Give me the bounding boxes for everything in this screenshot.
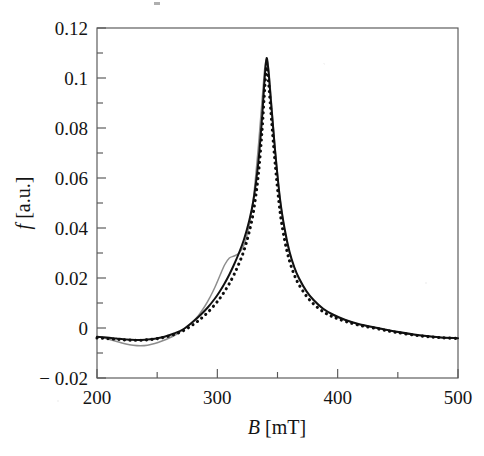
x-tick-label: 200: [83, 387, 112, 408]
y-axis-title: f [a.u.]: [12, 177, 35, 230]
x-tick-label: 400: [323, 387, 352, 408]
y-tick-label: 0.02: [55, 268, 88, 289]
y-tick-label: 0.06: [55, 168, 88, 189]
y-tick-label: 0.04: [55, 218, 89, 239]
x-tick-label: 300: [203, 387, 232, 408]
y-tick-label: 0.08: [55, 118, 88, 139]
x-axis-title: B [mT]: [248, 416, 306, 438]
scan-artifact-speck: [154, 2, 160, 5]
y-tick-label: 0.12: [55, 18, 88, 39]
resonance-line-chart: − 0.0200.020.040.060.080.10.12 200300400…: [0, 0, 484, 456]
x-tick-label: 500: [444, 387, 473, 408]
figure-container: − 0.0200.020.040.060.080.10.12 200300400…: [0, 0, 484, 456]
y-tick-label: 0.1: [64, 68, 88, 89]
y-tick-label: − 0.02: [39, 368, 88, 389]
y-tick-label: 0: [79, 318, 89, 339]
